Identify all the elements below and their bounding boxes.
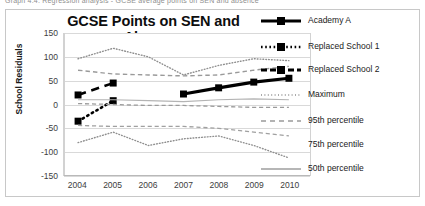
y-tick-label: 100 xyxy=(44,52,58,62)
series-line xyxy=(78,83,113,95)
legend-item[interactable]: 75th percentile xyxy=(258,138,420,152)
series-marker xyxy=(215,84,222,91)
series-marker xyxy=(75,91,82,98)
x-tick-label: 2006 xyxy=(139,180,158,190)
legend-label: Academy A xyxy=(308,15,351,25)
y-axis-tick-labels: 150100500-50-100-150 xyxy=(24,33,58,176)
legend-swatch xyxy=(258,14,304,28)
y-tick-label: 150 xyxy=(44,28,58,38)
series-marker xyxy=(180,91,187,98)
y-axis-title: School Residuals xyxy=(14,36,24,122)
y-tick-label: -100 xyxy=(41,147,58,157)
legend-swatch xyxy=(258,88,304,102)
legend-marker xyxy=(277,66,285,74)
series-marker xyxy=(110,97,117,104)
legend-label: Maximum xyxy=(308,89,345,99)
page-caption-strip: Graph 4.4: Regression analysis - GCSE av… xyxy=(0,0,425,9)
x-tick-label: 2005 xyxy=(103,180,122,190)
legend-item[interactable]: Replaced School 1 xyxy=(258,40,420,54)
x-axis-tick-labels: 2004200520062007200820092010 xyxy=(63,180,311,192)
legend-item[interactable]: Academy A xyxy=(258,14,420,28)
legend-swatch xyxy=(258,162,304,176)
legend-label: 75th percentile xyxy=(308,139,364,149)
legend-marker xyxy=(277,17,285,25)
legend-label: 95th percentile xyxy=(308,115,364,125)
legend-swatch xyxy=(258,138,304,152)
chart-legend: Academy AReplaced School 1Replaced Schoo… xyxy=(258,14,420,164)
x-tick-label: 2004 xyxy=(68,180,87,190)
x-tick-label: 2007 xyxy=(174,180,193,190)
y-tick-label: -150 xyxy=(41,171,58,181)
legend-item[interactable]: 95th percentile xyxy=(258,114,420,128)
legend-label: Replaced School 1 xyxy=(308,41,379,51)
legend-marker xyxy=(277,43,285,51)
legend-swatch xyxy=(258,114,304,128)
legend-item[interactable]: Replaced School 2 xyxy=(258,63,420,77)
legend-label: Replaced School 2 xyxy=(308,64,379,74)
x-tick-label: 2010 xyxy=(280,180,299,190)
legend-item[interactable]: Maximum xyxy=(258,88,420,102)
x-tick-label: 2009 xyxy=(245,180,264,190)
y-tick-label: 50 xyxy=(49,76,58,86)
legend-label: 50th percentile xyxy=(308,163,364,173)
x-tick-label: 2008 xyxy=(209,180,228,190)
gridline xyxy=(64,176,310,177)
legend-item[interactable]: 50th percentile xyxy=(258,162,420,176)
y-tick-label: -50 xyxy=(46,123,58,133)
chart-page: Graph 4.4: Regression analysis - GCSE av… xyxy=(0,0,425,206)
caption-left: Graph 4.4: Regression analysis - GCSE av… xyxy=(5,0,259,4)
legend-swatch xyxy=(258,63,304,77)
y-tick-label: 0 xyxy=(53,100,58,110)
series-marker xyxy=(110,80,117,87)
legend-swatch xyxy=(258,40,304,54)
series-marker xyxy=(75,118,82,125)
series-marker xyxy=(250,79,257,86)
